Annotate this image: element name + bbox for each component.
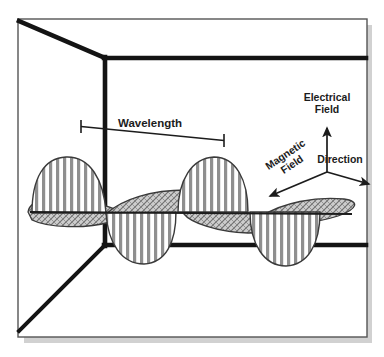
electrical-field-label-line1: Electrical xyxy=(304,91,351,103)
wavelength-label: Wavelength xyxy=(118,117,182,129)
direction-label: Direction xyxy=(317,153,363,165)
electrical-field-label-line2: Field xyxy=(315,103,340,115)
electromagnetic-wave-figure: Wavelength xyxy=(0,0,384,357)
diagram-page: Wavelength xyxy=(0,0,384,357)
